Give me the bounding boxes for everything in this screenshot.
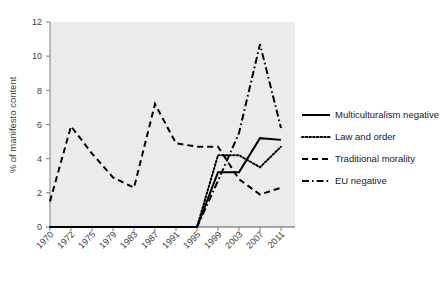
y-axis-ticks: 024681012 (32, 17, 50, 232)
y-tick-label: 2 (37, 188, 42, 198)
line-chart: 024681012 197019721975197919831987199119… (0, 0, 441, 286)
x-tick-label: 1999 (202, 229, 223, 250)
chart-figure: 024681012 197019721975197919831987199119… (0, 0, 441, 286)
legend-label-3: EU negative (335, 175, 387, 186)
y-tick-label: 10 (32, 51, 42, 61)
y-tick-label: 8 (37, 86, 42, 96)
chart-legend: Multiculturalism negativeLaw and orderTr… (302, 109, 439, 186)
y-tick-label: 4 (37, 154, 42, 164)
y-tick-label: 12 (32, 17, 42, 27)
x-tick-label: 2003 (223, 229, 244, 250)
x-tick-label: 1975 (76, 229, 97, 250)
x-tick-label: 1972 (55, 229, 76, 250)
x-tick-label: 1987 (139, 229, 160, 250)
x-tick-label: 1983 (118, 229, 139, 250)
x-tick-label: 1995 (181, 229, 202, 250)
x-axis-ticks: 1970197219751979198319871991199519992003… (34, 227, 286, 251)
legend-label-1: Law and order (335, 131, 396, 142)
x-tick-label: 2007 (244, 229, 265, 250)
legend-label-0: Multiculturalism negative (335, 109, 439, 120)
x-tick-label: 1970 (34, 229, 55, 250)
legend-label-2: Traditional morality (335, 153, 415, 164)
y-tick-label: 6 (37, 120, 42, 130)
x-tick-label: 1979 (97, 229, 118, 250)
y-tick-label: 0 (37, 222, 42, 232)
x-tick-label: 1991 (160, 229, 181, 250)
x-tick-label: 2011 (266, 229, 287, 250)
y-axis-title: % of manifesto content (7, 76, 18, 173)
